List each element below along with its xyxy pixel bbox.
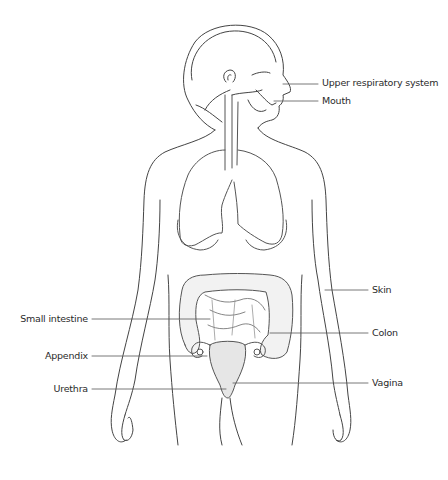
trachea [225,95,238,170]
label-colon: Colon [372,327,398,339]
label-skin: Skin [372,284,391,296]
label-upper-respiratory-system: Upper respiratory system [322,77,438,89]
label-vagina: Vagina [372,377,403,389]
anatomy-diagram: Upper respiratory system Mouth Skin Colo… [0,0,448,480]
head-outline [184,25,291,130]
uterus [192,341,266,398]
body-illustration [0,0,448,480]
label-urethra: Urethra [53,383,88,395]
label-appendix: Appendix [45,350,88,362]
label-small-intestine: Small intestine [20,313,88,325]
label-mouth: Mouth [322,95,351,107]
